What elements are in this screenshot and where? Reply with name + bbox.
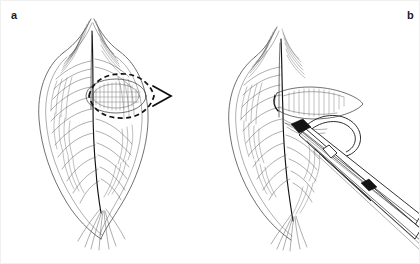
figure-container: a — [0, 0, 420, 264]
panel-b-illustration — [211, 1, 420, 264]
texture-upper-b — [249, 29, 305, 78]
texture-right-hatch-b — [292, 145, 320, 215]
texture-left-hatch-b — [241, 83, 276, 197]
anatomy-outline-a — [39, 19, 148, 239]
dashed-incision-outline-a — [89, 74, 154, 118]
direction-arrowhead-a — [153, 86, 171, 106]
texture-left-hatch-a — [51, 77, 84, 193]
lesion-area-a — [86, 79, 146, 113]
open-incision-b — [274, 87, 363, 119]
anatomy-outline-b — [229, 27, 293, 240]
panel-b: b — [211, 1, 420, 264]
texture-lower-a — [78, 209, 125, 250]
panel-a-illustration — [1, 1, 211, 264]
texture-right-hatch-a — [104, 77, 134, 197]
texture-left-folds-a — [51, 61, 99, 203]
panel-a: a — [1, 1, 211, 264]
